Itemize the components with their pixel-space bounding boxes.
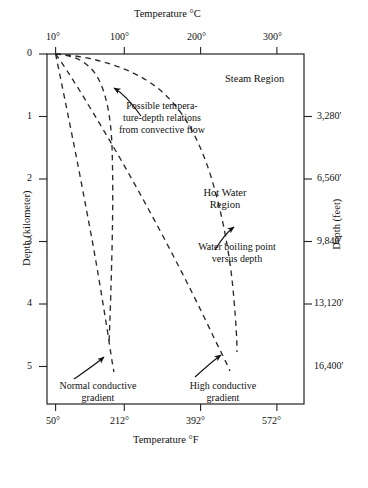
right-axis-ticks: [304, 117, 312, 305]
right-tick-9840ft: 9,840': [317, 235, 341, 247]
bottom-axis-title: Temperature °F: [133, 434, 199, 446]
right-tick-6560ft: 6,560': [317, 172, 341, 184]
bottom-tick-572f: 572°: [262, 415, 281, 427]
boiling-line-2: versus depth: [185, 253, 289, 265]
arrow-high-gradient: [195, 355, 221, 377]
hot-water-line-1: Hot Water: [193, 187, 257, 199]
bottom-tick-50f: 50°: [46, 415, 60, 427]
top-tick-100c: 100°: [110, 31, 129, 43]
callout-normal-gradient: Normal conductive gradient: [48, 380, 148, 404]
convective-line-1: Possible tempera-: [112, 100, 212, 112]
convective-line-2: ture-depth relations: [112, 112, 212, 124]
callout-high-gradient: High conductive gradient: [176, 380, 270, 404]
curve-normal-conductive-gradient: [56, 54, 114, 372]
temperature-depth-chart: Temperature °C Temperature °F Depth (kil…: [0, 0, 368, 488]
bottom-tick-392f: 392°: [186, 415, 205, 427]
left-axis-title: Depth (kilometer): [21, 183, 33, 273]
left-tick-3km: 3: [27, 235, 32, 247]
boiling-line-1: Water boiling point: [185, 241, 289, 253]
top-axis-title: Temperature °C: [134, 8, 201, 20]
top-axis-ticks: [56, 47, 277, 54]
callout-convective-flow: Possible tempera- ture-depth relations f…: [112, 100, 212, 136]
right-tick-16400ft: 16,400': [314, 360, 343, 372]
top-tick-300c: 300°: [263, 31, 282, 43]
right-tick-13120ft: 13,120': [314, 297, 343, 309]
right-tick-3280ft: 3,280': [317, 110, 341, 122]
top-tick-200c: 200°: [187, 31, 206, 43]
hot-water-line-2: Region: [193, 199, 257, 211]
left-tick-4km: 4: [27, 297, 32, 309]
bottom-axis-ticks: [56, 404, 277, 411]
left-tick-1km: 1: [27, 110, 32, 122]
left-tick-5km: 5: [27, 360, 32, 372]
right-axis-title: Depth (feet): [331, 189, 343, 259]
arrow-normal-gradient: [74, 357, 104, 379]
high-line-1: High conductive: [176, 380, 270, 392]
left-tick-2km: 2: [27, 172, 32, 184]
top-tick-10c: 10°: [46, 31, 60, 43]
high-line-2: gradient: [176, 392, 270, 404]
convective-line-3: from convective flow: [112, 124, 212, 136]
callout-water-boiling-point: Water boiling point versus depth: [185, 241, 289, 265]
bottom-tick-212f: 212°: [110, 415, 129, 427]
left-tick-0km: 0: [27, 47, 32, 59]
normal-line-1: Normal conductive: [48, 380, 148, 392]
left-axis-ticks: [39, 54, 47, 367]
region-label-steam: Steam Region: [225, 73, 284, 85]
normal-line-2: gradient: [48, 392, 148, 404]
region-label-hot-water: Hot Water Region: [193, 187, 257, 212]
